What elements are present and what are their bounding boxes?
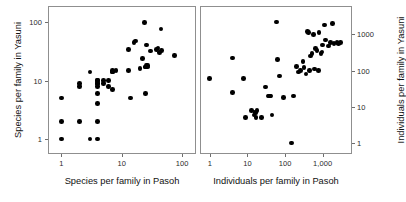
data-point xyxy=(263,85,268,90)
x-tick-mark xyxy=(210,154,211,157)
data-point xyxy=(310,51,315,56)
data-point xyxy=(291,94,296,99)
data-point xyxy=(207,76,212,81)
y-tick-label: 10 xyxy=(357,102,366,111)
x-tick-mark xyxy=(247,154,248,157)
y-tick-label: 1000 xyxy=(357,30,374,39)
data-point xyxy=(301,59,306,64)
y-tick-label: 100 xyxy=(357,66,370,75)
data-point xyxy=(230,90,235,95)
data-point xyxy=(311,32,316,37)
x-tick-label: 100 xyxy=(279,159,292,168)
y-tick-mark xyxy=(352,34,355,35)
right-panel-y-axis-title: Individuals per family in Yasuni xyxy=(396,17,406,144)
x-tick-label: 1,000 xyxy=(313,159,332,168)
plot-frame-right xyxy=(200,6,352,154)
data-point xyxy=(259,115,264,120)
data-point xyxy=(322,23,327,28)
data-point xyxy=(277,74,282,79)
y-tick-mark xyxy=(352,107,355,108)
data-point xyxy=(316,68,321,73)
data-point xyxy=(255,108,260,113)
data-point xyxy=(281,95,286,100)
data-point xyxy=(330,21,335,26)
data-point xyxy=(338,40,343,45)
y-tick-label: 1 xyxy=(357,139,361,148)
data-point xyxy=(243,115,248,120)
x-tick-label: 1 xyxy=(208,159,212,168)
data-point xyxy=(275,57,280,62)
x-tick-label: 10 xyxy=(243,159,252,168)
data-point xyxy=(230,56,235,61)
y-tick-mark xyxy=(352,143,355,144)
x-tick-mark xyxy=(323,154,324,157)
x-tick-mark xyxy=(285,154,286,157)
data-point xyxy=(241,76,246,81)
right-panel-x-axis-title: Individuals per family in Pasoh xyxy=(213,176,339,186)
y-tick-mark xyxy=(352,71,355,72)
data-point xyxy=(274,20,279,25)
